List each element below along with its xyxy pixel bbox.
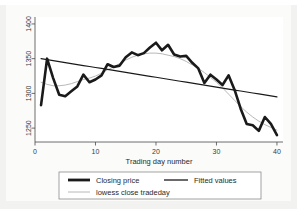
x-tick-label: 40 [273,148,281,155]
y-tick-label: 1300 [25,85,32,101]
x-tick-label: 30 [213,148,221,155]
legend-label-fitted-values: Fitted values [194,176,237,185]
x-axis-title: Trading day number [126,157,193,166]
legend-label-lowess: lowess close tradeday [96,188,170,197]
y-tick-label: 1350 [25,51,32,67]
y-tick-label: 1400 [25,16,32,32]
x-tick-label: 0 [33,148,37,155]
x-tick-label: 20 [152,148,160,155]
trading-day-line-chart: 1250130013501400 010203040 Trading day n… [6,5,291,201]
x-tick-label: 10 [92,148,100,155]
figure-canvas: 1250130013501400 010203040 Trading day n… [6,5,291,201]
y-tick-label: 1250 [25,120,32,136]
legend-label-closing-price: Closing price [96,176,139,185]
chart-figure: 1250130013501400 010203040 Trading day n… [0,0,297,209]
